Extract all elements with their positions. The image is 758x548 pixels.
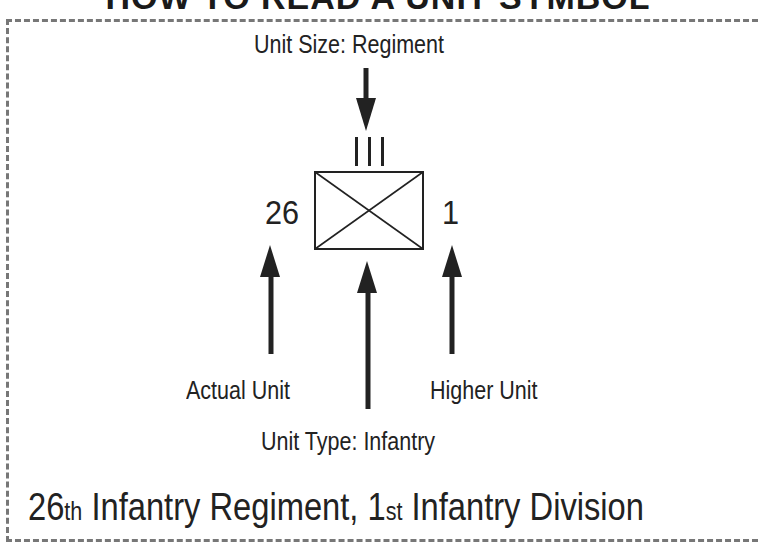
arrow-up-icon-actual-unit [260, 245, 280, 354]
size-indicator-regiment-icon [355, 137, 384, 166]
caption-unit-number: 26 [28, 486, 64, 528]
caption-unit-suffix: th [64, 497, 82, 525]
caption-higher-number: 1 [367, 486, 385, 528]
label-actual-unit: Actual Unit [186, 376, 290, 405]
label-unit-type: Unit Type: Infantry [261, 427, 435, 456]
arrow-up-icon-higher-unit [442, 245, 462, 354]
arrow-up-icon-unit-type [357, 261, 377, 409]
caption-higher-text: Infantry Division [402, 486, 644, 528]
infantry-symbol-icon [315, 172, 423, 249]
higher-unit-number: 1 [442, 193, 459, 232]
label-higher-unit: Higher Unit [430, 376, 538, 405]
caption-unit-text: Infantry Regiment, [82, 486, 367, 528]
actual-unit-number: 26 [265, 193, 299, 232]
caption-higher-suffix: st [386, 497, 403, 525]
arrow-down-icon [356, 68, 376, 131]
unit-caption: 26th Infantry Regiment, 1st Infantry Div… [28, 486, 644, 529]
